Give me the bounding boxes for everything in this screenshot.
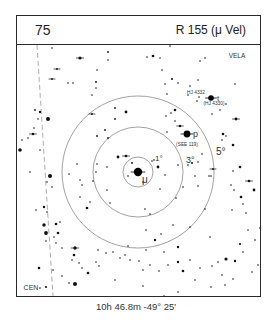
star-dot [98,265,100,267]
star-dot [204,57,206,59]
star-dot [157,166,160,169]
star-dot [158,270,160,272]
star-dot [171,78,173,80]
star-dot [177,246,179,248]
star-dot [204,208,206,210]
star-dot [38,267,41,270]
star-dot [196,100,198,102]
star-dot [27,137,29,139]
star-dot [45,240,47,242]
star-dot [142,269,144,271]
star-dot [53,236,55,238]
star-dot [73,254,76,257]
star-dot [231,209,233,211]
star-dot [174,109,177,112]
star-dot [79,196,81,198]
star-dot [34,109,36,111]
star-dot [251,271,253,273]
star-dot [198,96,200,98]
star-dot [177,164,179,166]
star-dot [81,184,83,186]
star-dot [175,197,177,199]
star-dot [239,243,241,245]
star-dot [242,203,244,205]
star-dot [189,259,191,261]
star-dot [144,208,146,210]
star-dot [55,223,58,226]
star-dot [149,213,151,215]
star-dot [239,166,242,169]
star-dot [95,171,97,173]
star-dot [151,160,153,162]
ring-label-5deg: 5° [216,146,226,157]
star-label-hj4330: (HJ 4330) [203,101,224,106]
star-dot [225,103,227,105]
star-dot [78,262,80,264]
star-dot [234,83,236,85]
star-dot [46,117,50,121]
star-dot [138,260,140,262]
star-dot [197,79,199,81]
star-dot [129,259,131,261]
star-dot [46,181,48,183]
star-dot [87,272,90,275]
star-label-p: p [193,129,198,139]
star-dot [197,161,199,163]
star-dot [152,55,155,58]
ring-label-1deg: 1° [155,154,163,163]
star-dot [194,279,196,281]
star-dot [232,278,234,280]
star-dot [96,135,98,137]
star-dot [112,251,114,253]
star-dot [169,45,171,47]
star-dot [209,236,211,238]
star-dot [240,196,243,199]
star-dot [52,269,54,271]
star-dot [167,264,169,266]
star-dot [55,242,57,244]
star-dot [114,118,116,120]
star-dot [68,282,70,284]
ring-label-3deg: 3° [186,155,195,165]
star-dot [107,137,109,139]
star-dot [105,252,107,254]
star-dot [221,139,223,141]
star-dot [106,166,108,168]
star-dot [106,189,108,191]
star-dot [208,175,210,177]
star-dot [33,127,35,129]
star-dot [86,207,89,210]
star-dot [61,247,63,249]
star-dot [117,156,120,159]
star-dot [259,227,261,229]
star-dot [224,284,226,286]
star-dot [177,82,179,84]
star-dot [45,286,47,288]
star-dot [67,82,69,84]
star-dot [91,94,93,96]
constellation-label-cen: CEN [24,284,39,291]
star-dot [96,69,98,71]
star-dot [211,113,213,115]
star-dot [35,209,37,211]
star-dot [165,115,167,117]
star-dot [44,231,48,235]
star-dot [253,189,256,192]
star-dot [257,264,259,266]
star-dot [107,51,109,53]
star-dot [219,109,221,111]
star-dot [254,239,256,241]
star-dot [51,186,53,188]
star-dot [39,111,41,113]
star-dot [43,206,45,208]
star-dot [109,202,111,204]
star-dot [96,163,98,165]
star-dot [211,265,213,267]
star-dot [177,261,179,263]
star-dot [232,170,234,172]
star-dot [114,107,116,109]
star-dot [21,139,23,141]
star-dot [160,233,162,235]
star-dot [39,149,41,151]
star-dot [42,223,45,226]
